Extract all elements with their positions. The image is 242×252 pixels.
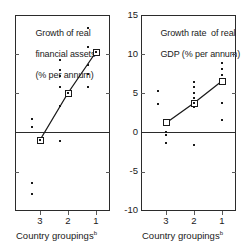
right-ytick-label-10: 10 — [119, 48, 138, 59]
left-dot — [31, 182, 33, 184]
right-ytick-10-right — [232, 54, 236, 55]
right-dot — [221, 102, 223, 104]
left-title-line-2: financial assets — [35, 49, 95, 59]
right-dot — [157, 103, 159, 105]
left-dot — [31, 118, 33, 120]
left-dot — [59, 75, 61, 77]
right-ytick-label-0: 0 — [119, 126, 138, 137]
right-dot — [221, 62, 223, 64]
left-ytick-5 — [15, 93, 19, 94]
left-dot — [31, 126, 33, 128]
right-ytick-5-right — [232, 93, 236, 94]
left-group-marker-3 — [37, 137, 44, 144]
left-ytick-minus5-right — [106, 172, 110, 173]
figure-two-panel-scatter: Growth of real financial assetsa (% per … — [0, 0, 242, 252]
left-zero-line — [15, 132, 110, 133]
right-ytick-5 — [141, 93, 145, 94]
right-ytick-label-minus5: -5 — [117, 165, 138, 176]
right-dot — [165, 131, 167, 133]
left-x-axis-caption-text: Country groupings — [16, 230, 94, 241]
right-dot — [157, 90, 159, 92]
right-dot — [221, 119, 223, 121]
left-panel: Growth of real financial assetsa (% per … — [0, 0, 121, 252]
left-dot — [59, 140, 61, 142]
right-dot — [193, 92, 195, 94]
right-ytick-minus5 — [141, 172, 145, 173]
right-dot — [193, 86, 195, 88]
right-dot — [165, 142, 167, 144]
left-xtick-label-2: 2 — [60, 215, 76, 226]
left-xtick-label-1: 1 — [88, 215, 104, 226]
left-title-line-1: Growth of real — [35, 28, 90, 38]
left-dot — [31, 193, 33, 195]
left-group-marker-2 — [65, 90, 72, 97]
right-group-marker-3 — [163, 119, 170, 126]
right-ytick-label-5: 5 — [119, 87, 138, 98]
left-group-marker-1 — [93, 49, 100, 56]
right-zero-line — [141, 132, 236, 133]
right-panel-title: Growth rate of real GDP (% per annum) — [146, 18, 241, 70]
right-dot — [221, 68, 223, 70]
left-ytick-10-right — [106, 54, 110, 55]
right-group-marker-1 — [219, 78, 226, 85]
right-ytick-label-15: 15 — [119, 9, 138, 20]
left-dot — [59, 105, 61, 107]
right-panel: Growth rate of real GDP (% per annum) 15… — [121, 0, 242, 252]
left-xtick-label-3: 3 — [32, 215, 48, 226]
right-title-line-2: GDP (% per annum) — [160, 49, 240, 59]
left-dot — [87, 46, 89, 48]
right-dot — [193, 81, 195, 83]
right-ytick-10 — [141, 54, 145, 55]
left-ytick-10 — [15, 54, 19, 55]
right-dot — [193, 97, 195, 99]
right-dot — [193, 144, 195, 146]
right-dot — [221, 74, 223, 76]
left-dot — [87, 73, 89, 75]
left-dot — [59, 86, 61, 88]
right-x-axis-caption-text: Country groupings — [142, 230, 220, 241]
right-dot — [165, 134, 167, 136]
right-xtick-label-1: 1 — [214, 215, 230, 226]
right-group-marker-2 — [191, 100, 198, 107]
left-x-axis-caption-superscript: b — [94, 230, 97, 236]
left-dot — [59, 59, 61, 61]
left-dot — [87, 64, 89, 66]
right-xtick-label-2: 2 — [186, 215, 202, 226]
left-x-axis-caption: Country groupingsb — [16, 230, 97, 241]
right-ytick-label-minus10: -10 — [114, 204, 138, 215]
left-dot — [87, 27, 89, 29]
left-dot — [59, 69, 61, 71]
right-ytick-minus5-right — [232, 172, 236, 173]
left-title-line-3: (% per annum) — [35, 70, 93, 80]
left-ytick-minus5 — [15, 172, 19, 173]
right-title-line-1: Growth rate of real — [160, 28, 235, 38]
left-ytick-5-right — [106, 93, 110, 94]
right-x-axis-caption: Country groupingsb — [142, 230, 223, 241]
right-x-axis-caption-superscript: b — [220, 230, 223, 236]
right-xtick-label-3: 3 — [158, 215, 174, 226]
left-dot — [87, 86, 89, 88]
